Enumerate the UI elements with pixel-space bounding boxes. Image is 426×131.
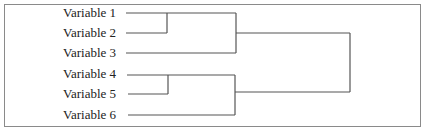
dendrogram-branches <box>0 0 426 131</box>
